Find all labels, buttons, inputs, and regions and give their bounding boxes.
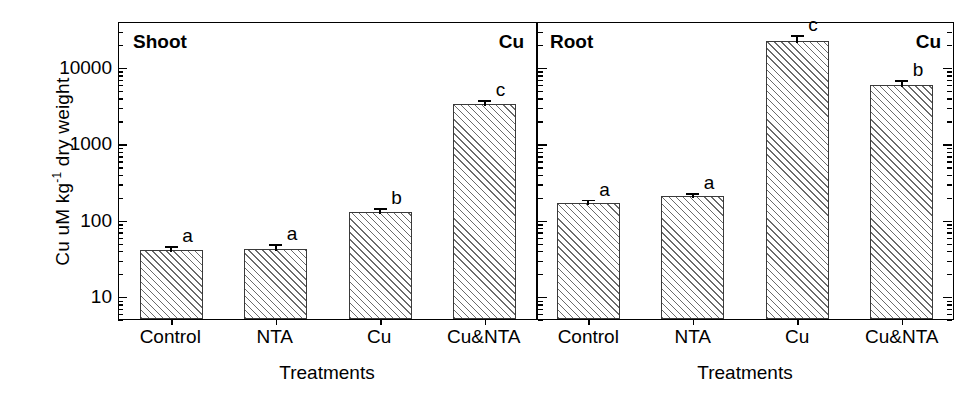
panel-root: Root Cu aacb xyxy=(536,22,954,320)
axis-tick-minor xyxy=(538,301,543,302)
axis-tick-minor xyxy=(538,261,543,262)
bar xyxy=(870,85,933,319)
bar xyxy=(661,196,724,319)
error-bar-cap xyxy=(374,208,387,210)
axis-tick-minor xyxy=(947,261,952,262)
axis-tick-minor xyxy=(118,304,123,305)
y-tick-label: 10 xyxy=(91,287,112,306)
axis-tick-minor xyxy=(538,274,543,275)
axis-tick-minor xyxy=(947,251,952,252)
axis-tick-minor xyxy=(538,304,543,305)
significance-letter: b xyxy=(913,60,924,79)
axis-tick-minor xyxy=(947,85,952,86)
error-bar-cap xyxy=(582,200,595,202)
axis-tick-minor xyxy=(118,198,123,199)
axis-tick-minor xyxy=(118,45,123,46)
axis-tick-minor xyxy=(538,121,543,122)
axis-tick-minor xyxy=(947,98,952,99)
bar xyxy=(766,41,829,319)
axis-tick-minor xyxy=(538,80,543,81)
axis-tick-minor xyxy=(538,224,543,225)
axis-tick-minor xyxy=(118,121,123,122)
x-category-label: Control xyxy=(140,326,201,348)
axis-tick-major xyxy=(943,144,952,145)
axis-tick-minor xyxy=(538,238,543,239)
axis-tick-minor xyxy=(538,71,543,72)
axis-tick-minor xyxy=(538,198,543,199)
left-axis-ticks xyxy=(118,22,127,320)
axis-tick-minor xyxy=(118,156,123,157)
axis-tick-minor xyxy=(947,75,952,76)
panel-root-title: Root xyxy=(550,31,593,53)
x-axis-tick xyxy=(797,319,798,325)
axis-tick-major xyxy=(118,68,127,69)
axis-tick-minor xyxy=(947,152,952,153)
axis-tick-minor xyxy=(538,98,543,99)
x-axis-tick xyxy=(485,319,486,325)
bar xyxy=(349,212,412,319)
axis-tick-major xyxy=(118,297,127,298)
axis-tick-minor xyxy=(538,228,543,229)
x-category-label: Control xyxy=(558,326,619,348)
axis-tick-minor xyxy=(947,175,952,176)
axis-tick-minor xyxy=(538,161,543,162)
axis-tick-minor xyxy=(118,320,123,321)
axis-tick-minor xyxy=(538,309,543,310)
axis-tick-minor xyxy=(118,232,123,233)
axis-tick-minor xyxy=(118,309,123,310)
x-axis-tick xyxy=(588,319,589,325)
axis-tick-major xyxy=(943,297,952,298)
axis-tick-major xyxy=(538,297,547,298)
axis-tick-minor xyxy=(538,251,543,252)
error-bar-cap xyxy=(269,244,282,246)
axis-tick-major xyxy=(538,144,547,145)
axis-tick-minor xyxy=(118,75,123,76)
axis-tick-minor xyxy=(538,167,543,168)
axis-tick-minor xyxy=(118,98,123,99)
axis-tick-minor xyxy=(538,32,543,33)
axis-tick-minor xyxy=(947,22,952,23)
significance-letter: a xyxy=(182,226,193,245)
axis-tick-minor xyxy=(947,320,952,321)
axis-tick-minor xyxy=(538,108,543,109)
axis-tick-minor xyxy=(118,161,123,162)
axis-tick-minor xyxy=(118,175,123,176)
bar xyxy=(557,203,620,319)
error-bar-cap xyxy=(165,246,178,248)
significance-letter: a xyxy=(704,173,715,192)
x-category-label: NTA xyxy=(674,326,711,348)
axis-tick-minor xyxy=(118,301,123,302)
axis-tick-minor xyxy=(947,244,952,245)
axis-tick-minor xyxy=(947,309,952,310)
axis-tick-minor xyxy=(118,261,123,262)
x-axis-tick xyxy=(693,319,694,325)
axis-tick-minor xyxy=(538,152,543,153)
axis-tick-minor xyxy=(947,224,952,225)
axis-tick-minor xyxy=(947,314,952,315)
panel-shoot: Shoot Cu aabc xyxy=(118,22,536,320)
y-tick-label: 100 xyxy=(80,211,112,230)
axis-tick-minor xyxy=(118,314,123,315)
axis-tick-minor xyxy=(947,45,952,46)
axis-tick-minor xyxy=(947,71,952,72)
bar xyxy=(140,250,203,319)
x-axis-tick xyxy=(276,319,277,325)
y-axis-tick-labels: 10000100010010 xyxy=(0,0,112,400)
significance-letter: a xyxy=(599,180,610,199)
x-category-label: Cu&NTA xyxy=(865,326,939,348)
axis-tick-minor xyxy=(538,232,543,233)
axis-tick-minor xyxy=(118,71,123,72)
axis-tick-major xyxy=(538,68,547,69)
error-bar-cap xyxy=(478,100,491,102)
axis-tick-minor xyxy=(538,314,543,315)
axis-tick-minor xyxy=(947,156,952,157)
axis-tick-minor xyxy=(947,32,952,33)
axis-tick-major xyxy=(118,221,127,222)
axis-tick-minor xyxy=(538,45,543,46)
error-bar-cap xyxy=(895,80,908,82)
axis-tick-minor xyxy=(118,91,123,92)
bar xyxy=(244,249,307,319)
x-category-label: Cu&NTA xyxy=(447,326,521,348)
axis-tick-minor xyxy=(118,184,123,185)
axis-tick-minor xyxy=(118,274,123,275)
